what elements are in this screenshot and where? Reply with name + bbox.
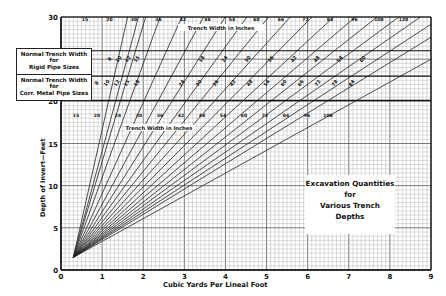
chart-title: Excavation Quantities for Various Trench… [305, 175, 395, 234]
rigid-pipe-band-label: Normal Trench Width for Rigid Pipe Sizes [16, 48, 92, 75]
svg-text:12: 12 [124, 55, 132, 63]
svg-text:120: 120 [399, 17, 408, 22]
svg-text:18: 18 [133, 78, 141, 87]
svg-text:7: 7 [346, 273, 351, 281]
svg-text:10: 10 [48, 183, 58, 191]
svg-text:42: 42 [180, 17, 186, 22]
svg-text:36: 36 [157, 113, 163, 118]
svg-text:54: 54 [336, 54, 344, 63]
svg-text:30: 30 [244, 54, 252, 63]
svg-text:24: 24 [115, 113, 121, 118]
svg-text:15: 15 [48, 141, 58, 149]
svg-text:48: 48 [204, 17, 210, 22]
svg-text:48: 48 [199, 113, 205, 118]
svg-text:Trench Width in Inches: Trench Width in Inches [188, 25, 255, 31]
rigid-line-3: Rigid Pipe Sizes [17, 64, 91, 70]
svg-text:60: 60 [359, 54, 367, 63]
corr-line-3: Corr. Metal Pipe Sizes [17, 90, 91, 96]
excavation-chart: 152030364248546066728496108120Trench Wid… [0, 0, 446, 296]
svg-text:78: 78 [331, 78, 339, 87]
corr-metal-pipe-band-label: Normal Trench Width for Corr. Metal Pipe… [16, 74, 92, 101]
svg-text:48: 48 [246, 78, 254, 87]
svg-text:Trench Width in Inches: Trench Width in Inches [126, 125, 193, 131]
svg-text:60: 60 [241, 113, 247, 118]
svg-text:30: 30 [131, 17, 137, 22]
svg-text:36: 36 [155, 17, 161, 22]
svg-text:30: 30 [48, 14, 58, 22]
svg-text:10: 10 [103, 78, 111, 87]
title-line-2: for [305, 189, 395, 200]
svg-text:84: 84 [283, 113, 289, 118]
svg-text:1: 1 [100, 273, 105, 281]
svg-text:60: 60 [253, 17, 259, 22]
svg-text:108: 108 [323, 113, 332, 118]
svg-text:8: 8 [107, 56, 113, 62]
svg-text:84: 84 [327, 17, 333, 22]
svg-text:20: 20 [106, 17, 112, 22]
svg-text:108: 108 [374, 17, 383, 22]
title-line-3: Various Trench Depths [305, 200, 395, 222]
svg-text:0: 0 [53, 267, 58, 275]
svg-text:30: 30 [136, 113, 142, 118]
svg-text:96: 96 [304, 113, 310, 118]
svg-text:20: 20 [94, 113, 100, 118]
y-axis-label: Depth of Invert—Feet [39, 147, 47, 217]
svg-text:8: 8 [387, 273, 392, 281]
svg-text:24: 24 [178, 78, 186, 87]
svg-text:72: 72 [262, 113, 268, 118]
svg-text:10: 10 [115, 54, 123, 63]
svg-text:15: 15 [82, 17, 88, 22]
svg-text:54: 54 [229, 17, 235, 22]
svg-text:3: 3 [182, 273, 187, 281]
svg-text:4: 4 [223, 273, 228, 281]
svg-text:42: 42 [178, 113, 184, 118]
svg-text:6: 6 [305, 273, 310, 281]
x-axis-label: Cubic Yards Per Lineal Foot [163, 281, 268, 289]
svg-text:66: 66 [278, 17, 284, 22]
svg-text:5: 5 [53, 225, 58, 233]
svg-text:24: 24 [221, 54, 229, 63]
title-line-1: Excavation Quantities [305, 178, 395, 189]
svg-text:96: 96 [351, 17, 357, 22]
svg-text:72: 72 [302, 17, 308, 22]
svg-text:2: 2 [141, 273, 146, 281]
svg-text:8: 8 [94, 80, 100, 86]
svg-text:54: 54 [220, 113, 226, 118]
svg-text:9: 9 [429, 273, 434, 281]
svg-text:54: 54 [263, 78, 271, 87]
svg-text:15: 15 [73, 113, 79, 118]
svg-text:5: 5 [264, 273, 269, 281]
svg-text:0: 0 [59, 273, 64, 281]
